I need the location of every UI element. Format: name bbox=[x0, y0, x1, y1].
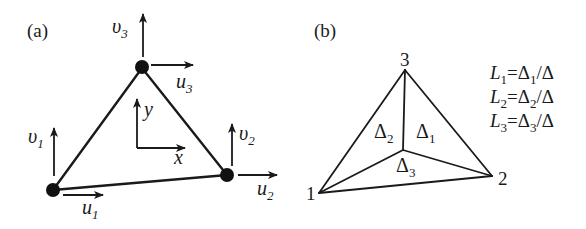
formula-L3: L3=Δ3/Δ bbox=[489, 110, 554, 135]
node-1 bbox=[46, 183, 60, 197]
subarea-delta-3: Δ3 bbox=[396, 154, 415, 180]
node-2 bbox=[220, 168, 234, 182]
node-3 bbox=[135, 60, 149, 74]
formula-L2: L2=Δ2/Δ bbox=[489, 86, 554, 111]
v1-label: υ1 bbox=[28, 125, 44, 151]
vertex-label-3: 3 bbox=[400, 49, 410, 70]
subarea-delta-1: Δ1 bbox=[416, 120, 435, 146]
vertex-label-2: 2 bbox=[498, 168, 508, 189]
interior-to-2 bbox=[403, 150, 492, 176]
edge-b-1-2 bbox=[319, 176, 492, 193]
u3-label: u3 bbox=[176, 70, 193, 96]
y-axis-label: y bbox=[142, 98, 153, 121]
formula-L1: L1=Δ1/Δ bbox=[489, 62, 554, 87]
v2-label: υ2 bbox=[239, 122, 255, 148]
u2-label: u2 bbox=[257, 177, 274, 203]
interior-to-3 bbox=[403, 70, 405, 150]
subarea-delta-2: Δ2 bbox=[374, 120, 393, 146]
vertex-label-1: 1 bbox=[306, 183, 316, 204]
panel-a: (a) υ3 u3 υ1 u1 υ2 u2 y x bbox=[27, 14, 277, 222]
panel-a-label: (a) bbox=[27, 20, 48, 42]
edge-1-3 bbox=[53, 68, 142, 190]
panel-b: (b) 1 2 3 Δ2 Δ1 Δ3 L1=Δ1/Δ L2=Δ2/Δ L3=Δ3… bbox=[306, 20, 554, 204]
triangle-element-figure: (a) υ3 u3 υ1 u1 υ2 u2 y x (b) bbox=[0, 0, 586, 229]
edge-1-2 bbox=[53, 175, 227, 190]
panel-b-label: (b) bbox=[314, 20, 336, 42]
x-axis-label: x bbox=[173, 146, 183, 168]
u1-label: u1 bbox=[82, 196, 99, 222]
v3-label: υ3 bbox=[112, 15, 128, 41]
